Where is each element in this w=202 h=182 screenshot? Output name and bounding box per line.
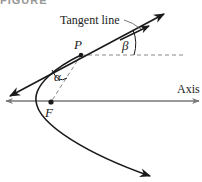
- focus-dot: [48, 99, 53, 104]
- tangent-line-label: Tangent line: [60, 13, 119, 27]
- alpha-label: α: [54, 69, 62, 84]
- parabola-reflection-diagram: Tangent line P β α Axis F: [0, 0, 202, 182]
- beta-label: β: [121, 38, 129, 53]
- focus-label: F: [44, 105, 54, 120]
- point-p-dot: [79, 53, 83, 57]
- point-p-label: P: [73, 37, 82, 52]
- axis-label: Axis: [177, 82, 200, 96]
